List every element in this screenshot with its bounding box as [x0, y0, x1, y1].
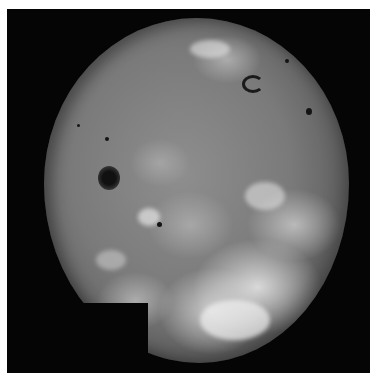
dark-volcanic-spot: [98, 166, 120, 190]
dark-spot: [77, 124, 80, 127]
bright-patch: [200, 300, 270, 340]
horseshoe-feature: [242, 75, 264, 93]
dark-spot: [306, 108, 312, 115]
bright-patch: [96, 250, 126, 270]
dark-spot: [285, 59, 289, 63]
dark-spot: [105, 137, 109, 141]
bright-patch: [190, 40, 230, 58]
bright-patch: [245, 182, 285, 210]
dark-spot: [157, 222, 162, 227]
mosaic-gap-right: [351, 172, 370, 302]
mosaic-gap-bottom-left: [60, 303, 148, 373]
